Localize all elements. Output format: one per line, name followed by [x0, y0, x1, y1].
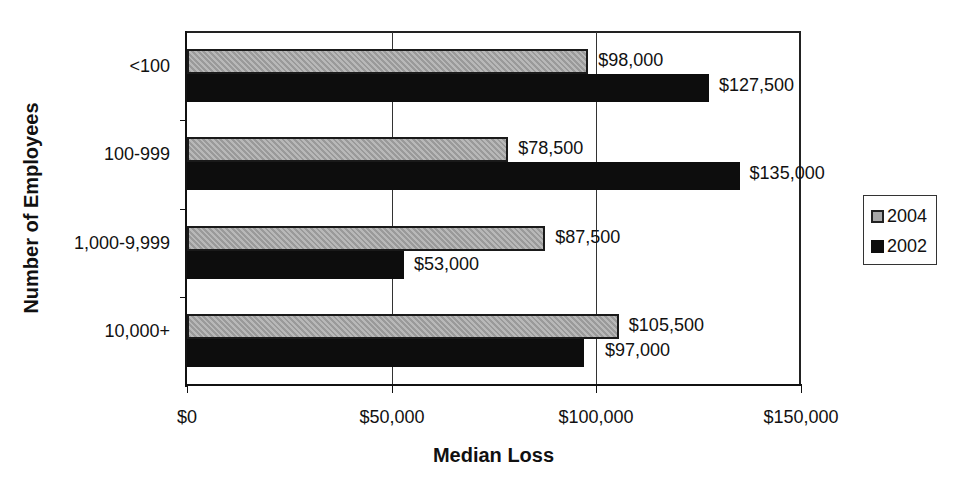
x-axis-line — [185, 384, 802, 386]
y-category-label: <100 — [0, 56, 170, 77]
x-tick — [596, 385, 597, 393]
bar-2004 — [187, 49, 588, 74]
x-axis-title: Median Loss — [186, 444, 801, 467]
bar-2004 — [187, 137, 508, 162]
y-tick — [180, 209, 186, 210]
x-tick-label: $100,000 — [558, 407, 633, 428]
legend-item-2004: 2004 — [871, 206, 927, 227]
data-label: $98,000 — [598, 50, 663, 71]
data-label: $78,500 — [518, 138, 583, 159]
x-tick-label: $150,000 — [763, 407, 838, 428]
bar-2002 — [187, 339, 584, 367]
y-tick — [180, 120, 186, 121]
data-label: $105,500 — [629, 315, 704, 336]
x-tick — [801, 385, 802, 393]
x-tick — [392, 385, 393, 393]
x-tick — [187, 385, 188, 393]
data-label: $87,500 — [555, 227, 620, 248]
y-axis-title: Number of Employees — [20, 102, 43, 313]
x-tick-label: $50,000 — [359, 407, 424, 428]
legend-swatch-2002 — [871, 240, 884, 253]
bar-2004 — [187, 226, 545, 251]
bar-2002 — [187, 74, 709, 102]
y-tick — [180, 297, 186, 298]
bar-2004 — [187, 314, 619, 339]
data-label: $53,000 — [414, 254, 479, 275]
legend-label: 2004 — [887, 206, 927, 227]
data-label: $127,500 — [719, 75, 794, 96]
bar-2002 — [187, 162, 740, 190]
data-label: $97,000 — [605, 340, 670, 361]
legend: 2004 2002 — [863, 195, 937, 265]
data-label: $135,000 — [750, 163, 825, 184]
y-category-label: 10,000+ — [0, 321, 170, 342]
x-tick-label: $0 — [177, 407, 197, 428]
legend-swatch-2004 — [871, 210, 884, 223]
legend-label: 2002 — [887, 236, 927, 257]
bar-2002 — [187, 251, 404, 279]
legend-item-2002: 2002 — [871, 236, 927, 257]
